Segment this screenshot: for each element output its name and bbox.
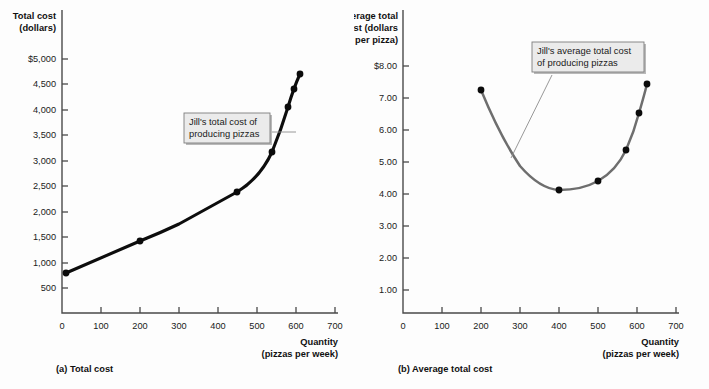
y-tick-label: 4,500 [33, 79, 56, 89]
y-tick-label: 1.00 [379, 285, 397, 295]
average-total-cost-curve [481, 84, 647, 190]
y-axis-title-line3: per pizza) [355, 35, 398, 45]
data-point [269, 149, 276, 156]
x-axis-ticks [442, 307, 676, 313]
x-tick-label: 100 [434, 321, 449, 331]
y-axis-ticks [62, 59, 68, 288]
data-point [623, 147, 630, 154]
x-axis-title-line2: (pizzas per week) [262, 349, 338, 359]
y-tick-label: 2,000 [33, 207, 56, 217]
data-point [63, 270, 70, 277]
data-point [291, 86, 298, 93]
x-tick-label: 100 [93, 321, 108, 331]
data-point [644, 81, 651, 88]
y-tick-label: $5,000 [28, 54, 56, 64]
y-tick-label: 4,000 [33, 105, 56, 115]
callout-text-line1: Jill's average total cost [537, 45, 631, 56]
x-axis-title-line1: Quantity [300, 337, 339, 347]
y-tick-label: 7.00 [379, 93, 397, 103]
callout-text-line2: producing pizzas [189, 128, 260, 139]
data-point [595, 178, 602, 185]
x-tick-label: 0 [400, 321, 405, 331]
y-tick-label: 2,500 [33, 181, 56, 191]
x-tick-label: 700 [668, 321, 683, 331]
y-tick-label: 3,000 [33, 156, 56, 166]
y-tick-label: $8.00 [374, 61, 397, 71]
y-axis-title-line2: (dollars) [19, 23, 56, 33]
x-tick-label: 200 [473, 321, 488, 331]
x-axis-title-line2: (pizzas per week) [603, 349, 679, 359]
data-point [478, 87, 485, 94]
average-total-cost-chart-svg: Average total cost (dollars per pizza) $… [354, 0, 709, 389]
axes [62, 10, 338, 313]
callout-text-line1: Jill's total cost of [189, 116, 257, 127]
panel-total-cost: Total cost (dollars) $5,000 4,500 4,000 … [0, 0, 355, 389]
x-tick-label: 400 [551, 321, 566, 331]
y-axis-tick-labels: $8.00 7.00 6.00 5.00 4.00 3.00 2.00 1.00 [374, 61, 397, 295]
data-point [556, 187, 563, 194]
panel-average-total-cost: Average total cost (dollars per pizza) $… [354, 0, 709, 389]
x-tick-label: 0 [59, 321, 64, 331]
total-cost-data-points [63, 71, 304, 277]
data-point [297, 71, 304, 78]
data-point [636, 110, 643, 117]
y-tick-label: 1,500 [33, 232, 56, 242]
data-point [137, 238, 144, 245]
y-tick-label: 4.00 [379, 189, 397, 199]
x-axis-tick-labels: 0 100 200 300 400 500 600 700 [400, 321, 683, 331]
y-tick-label: 1,000 [33, 258, 56, 268]
x-axis-tick-labels: 0 100 200 300 400 500 600 700 [59, 321, 342, 331]
y-tick-label: 3,500 [33, 130, 56, 140]
x-tick-label: 300 [171, 321, 186, 331]
y-axis-title-line1: Average total [354, 11, 398, 21]
y-tick-label: 5.00 [379, 157, 397, 167]
y-axis-tick-labels: $5,000 4,500 4,000 3,500 3,000 2,500 2,0… [28, 54, 56, 293]
y-tick-label: 500 [41, 283, 56, 293]
y-tick-label: 3.00 [379, 221, 397, 231]
y-tick-label: 6.00 [379, 125, 397, 135]
panel-caption: (b) Average total cost [398, 364, 492, 374]
y-axis-ticks [403, 66, 409, 290]
total-cost-chart-svg: Total cost (dollars) $5,000 4,500 4,000 … [0, 0, 355, 389]
y-tick-label: 2.00 [379, 253, 397, 263]
x-tick-label: 600 [288, 321, 303, 331]
callout-leader-line [511, 75, 552, 158]
data-point [285, 104, 292, 111]
y-axis-title-line2: cost (dollars [354, 23, 398, 33]
x-tick-label: 400 [210, 321, 225, 331]
callout-text-line2: of producing pizzas [537, 57, 618, 68]
x-tick-label: 700 [327, 321, 342, 331]
x-axis-ticks [101, 307, 335, 313]
x-axis-title-line1: Quantity [641, 337, 680, 347]
y-axis-title-line1: Total cost [13, 11, 56, 21]
x-tick-label: 200 [132, 321, 147, 331]
total-cost-curve [66, 74, 300, 273]
panel-caption: (a) Total cost [56, 364, 113, 374]
x-tick-label: 300 [512, 321, 527, 331]
data-point [234, 189, 241, 196]
x-tick-label: 600 [629, 321, 644, 331]
x-tick-label: 500 [590, 321, 605, 331]
x-tick-label: 500 [249, 321, 264, 331]
